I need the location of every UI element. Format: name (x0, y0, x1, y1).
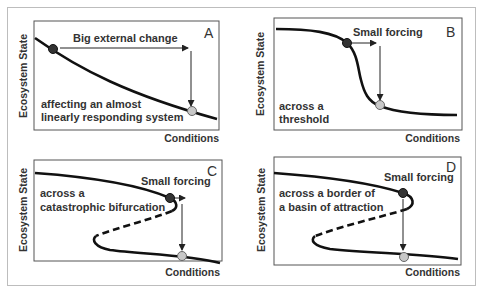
description-line-2: a basin of attraction (279, 201, 384, 213)
initial-state-dot (343, 39, 352, 48)
y-axis-label: Ecosystem State (255, 168, 267, 252)
x-axis-label: Conditions (405, 132, 460, 144)
x-axis-label: Conditions (164, 132, 219, 144)
forcing-label: Small forcing (141, 175, 211, 187)
panel-d: Ecosystem State Conditions D Small forci… (255, 157, 461, 278)
description-line-1: across a (279, 100, 325, 112)
lower-stable-branch (94, 236, 220, 263)
forcing-label: Small forcing (384, 171, 454, 183)
panel-c: Ecosystem State Conditions C Small forci… (17, 160, 222, 278)
description-line-2: threshold (279, 113, 329, 125)
y-axis-label: Ecosystem State (17, 34, 29, 118)
description-line-2: linearly responding system (41, 111, 184, 123)
x-axis-label: Conditions (165, 266, 220, 278)
x-axis-label: Conditions (405, 266, 460, 278)
final-state-dot (178, 252, 187, 261)
initial-state-dot (166, 194, 175, 203)
ecosystem-regime-shift-figure: Ecosystem State Conditions A Big externa… (0, 0, 484, 294)
initial-state-dot (49, 45, 58, 54)
description-line-1: affecting an almost (41, 98, 142, 110)
forcing-label: Big external change (73, 32, 178, 44)
y-axis-label: Ecosystem State (17, 168, 29, 252)
forcing-label: Small forcing (353, 26, 423, 38)
final-state-dot (188, 107, 197, 116)
description-line-1: across a (40, 187, 86, 199)
final-state-dot (400, 253, 409, 262)
unstable-branch (315, 209, 407, 236)
unstable-branch (96, 211, 172, 236)
initial-state-dot (399, 189, 408, 198)
panel-b: Ecosystem State Conditions B Small forci… (254, 18, 462, 144)
y-axis-label: Ecosystem State (254, 32, 266, 116)
panel-letter: B (446, 24, 455, 40)
final-state-dot (376, 101, 385, 110)
panel-letter: A (204, 25, 214, 41)
panel-a: Ecosystem State Conditions A Big externa… (17, 21, 219, 144)
description-line-1: across a border of (279, 187, 375, 199)
lower-stable-branch (313, 236, 458, 259)
description-line-2: catastrophic bifurcation (40, 201, 166, 213)
